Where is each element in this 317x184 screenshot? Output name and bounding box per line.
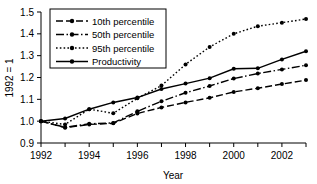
legend-label: 50th percentile	[92, 29, 154, 40]
x-tick-label: 1996	[126, 150, 149, 161]
data-point	[87, 122, 91, 126]
data-point	[304, 17, 308, 21]
data-point	[159, 105, 163, 109]
data-point	[256, 24, 260, 28]
legend-marker	[70, 32, 74, 36]
data-point	[184, 100, 188, 104]
data-point	[280, 67, 284, 71]
data-point	[208, 84, 212, 88]
data-point	[256, 66, 260, 70]
x-axis-title: Year	[163, 170, 184, 181]
y-tick-label: 1.4	[20, 28, 34, 39]
data-point	[39, 119, 43, 123]
data-point	[184, 62, 188, 66]
legend-marker	[70, 59, 74, 63]
legend-marker	[70, 19, 74, 23]
data-point	[304, 78, 308, 82]
data-point	[159, 87, 163, 91]
data-point	[232, 67, 236, 71]
x-tick-label: 2000	[223, 150, 246, 161]
data-point	[256, 72, 260, 76]
data-point	[232, 77, 236, 81]
data-point	[232, 90, 236, 94]
chart-container: 0.91.01.11.21.31.41.5 199219941996199820…	[0, 0, 317, 184]
legend-label: Productivity	[92, 56, 141, 67]
data-point	[208, 45, 212, 49]
data-point	[232, 32, 236, 36]
data-point	[280, 21, 284, 25]
chart-legend: 10th percentile50th percentile95th perce…	[50, 9, 166, 68]
y-tick-label: 0.9	[20, 138, 34, 149]
line-chart: 0.91.01.11.21.31.41.5 199219941996199820…	[0, 0, 317, 184]
legend-marker	[70, 46, 74, 50]
data-point	[280, 82, 284, 86]
data-point	[208, 76, 212, 80]
data-point	[304, 49, 308, 53]
data-point	[208, 96, 212, 100]
y-axis-ticks: 0.91.01.11.21.31.41.5	[20, 7, 41, 149]
data-point	[111, 121, 115, 125]
data-point	[184, 91, 188, 95]
legend-label: 10th percentile	[92, 16, 154, 27]
y-tick-label: 1.0	[20, 116, 34, 127]
data-point	[135, 109, 139, 113]
series-2	[39, 63, 308, 129]
series-line	[41, 80, 306, 128]
y-tick-label: 1.5	[20, 7, 34, 18]
data-point	[304, 63, 308, 67]
x-tick-label: 1992	[30, 150, 53, 161]
data-point	[159, 99, 163, 103]
y-tick-label: 1.1	[20, 94, 34, 105]
data-point	[280, 57, 284, 61]
data-point	[135, 96, 139, 100]
x-tick-label: 1998	[174, 150, 197, 161]
data-point	[256, 86, 260, 90]
data-point	[159, 84, 163, 88]
legend-label: 95th percentile	[92, 43, 154, 54]
y-tick-label: 1.3	[20, 50, 34, 61]
y-axis-title: 1992 = 1	[4, 58, 15, 98]
data-point	[111, 100, 115, 104]
x-tick-label: 1994	[78, 150, 101, 161]
data-point	[87, 107, 91, 111]
y-tick-label: 1.2	[20, 72, 34, 83]
data-point	[111, 111, 115, 115]
data-point	[184, 82, 188, 86]
x-axis-ticks: 199219941996199820002002	[30, 143, 306, 161]
data-point	[63, 117, 67, 121]
x-tick-label: 2002	[271, 150, 294, 161]
data-point	[63, 122, 67, 126]
